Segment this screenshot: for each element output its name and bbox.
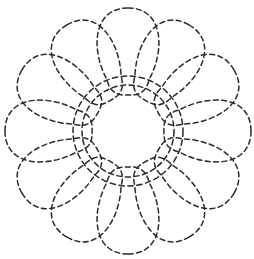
canvas-background xyxy=(0,0,254,259)
pattern-canvas xyxy=(0,0,254,259)
rosette-figure xyxy=(0,0,254,259)
